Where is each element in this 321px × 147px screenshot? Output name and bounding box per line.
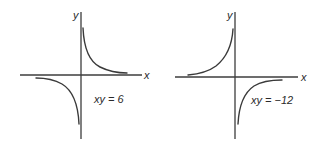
equation-label: xy = −12 — [250, 94, 293, 106]
y-axis-label: y — [72, 9, 80, 21]
graph-xy-6: x y xy = 6 — [20, 9, 150, 139]
equation-label: xy = 6 — [93, 93, 125, 105]
hyperbola-branch-quadrant-1 — [83, 28, 127, 73]
x-axis-label: x — [300, 71, 307, 83]
y-axis-label: y — [226, 9, 234, 21]
graph-xy-minus-12: x y xy = −12 — [175, 9, 307, 139]
hyperbola-branch-quadrant-3 — [36, 78, 79, 124]
x-axis-label: x — [143, 69, 150, 81]
hyperbola-branch-quadrant-2 — [188, 29, 233, 75]
hyperbola-figure: x y xy = 6 x y xy = −12 — [0, 0, 321, 147]
